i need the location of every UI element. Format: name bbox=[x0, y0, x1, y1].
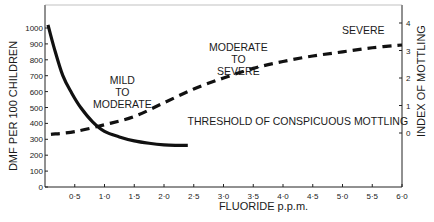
x-tick-label: 4·5 bbox=[307, 192, 319, 201]
y2-tick-label: 3 bbox=[406, 47, 411, 56]
y2-tick-label: 2 bbox=[406, 74, 411, 83]
annotation-label: MODERATE bbox=[93, 98, 152, 110]
y2-tick-label: 0 bbox=[406, 129, 411, 138]
annotation-label: TO bbox=[115, 86, 129, 98]
x-tick-label: 1·5 bbox=[128, 192, 140, 201]
x-tick-label: 1·0 bbox=[99, 192, 111, 201]
y-tick-label: 400 bbox=[30, 119, 44, 128]
annotation-label: MILD bbox=[110, 74, 136, 86]
y-tick-label: 300 bbox=[30, 135, 44, 144]
y2-axis-title: INDEX OF MOTTLING bbox=[415, 25, 427, 137]
y-tick-label: 1000 bbox=[25, 24, 43, 33]
y-tick-label: 500 bbox=[30, 104, 44, 113]
y-tick-label: 700 bbox=[30, 72, 44, 81]
annotation-label: MODERATE bbox=[209, 41, 268, 53]
y-tick-label: 900 bbox=[30, 40, 44, 49]
y-axis-title: DMF PER 100 CHILDREN bbox=[7, 41, 19, 171]
x-tick-label: 0·5 bbox=[69, 192, 81, 201]
x-tick-label: 2·0 bbox=[158, 192, 170, 201]
y-tick-label: 600 bbox=[30, 88, 44, 97]
chart: 0·51·01·52·02·53·03·54·04·55·05·56·00100… bbox=[0, 0, 434, 222]
x-tick-label: 5·5 bbox=[366, 192, 378, 201]
y2-tick-label: 1 bbox=[406, 102, 411, 111]
x-tick-label: 6·0 bbox=[396, 192, 408, 201]
y-tick-label: 0 bbox=[39, 183, 44, 192]
annotation-label: THRESHOLD OF CONSPICUOUS MOTTLING bbox=[188, 115, 409, 127]
y-tick-label: 100 bbox=[30, 167, 44, 176]
annotation-label: TO bbox=[231, 53, 245, 65]
x-tick-label: 2·5 bbox=[188, 192, 200, 201]
x-tick-label: 5·0 bbox=[337, 192, 349, 201]
x-axis-title: FLUORIDE p.p.m. bbox=[219, 200, 308, 212]
annotation-label: SEVERE bbox=[342, 24, 385, 36]
annotations: MILDTOMODERATEMODERATETOSEVERESEVERETHRE… bbox=[93, 24, 408, 127]
axes: 0·51·01·52·02·53·03·54·04·55·05·56·00100… bbox=[7, 5, 427, 212]
y-tick-label: 200 bbox=[30, 151, 44, 160]
annotation-label: SEVERE bbox=[217, 65, 260, 77]
y-tick-label: 800 bbox=[30, 56, 44, 65]
y2-tick-label: 4 bbox=[406, 19, 411, 28]
